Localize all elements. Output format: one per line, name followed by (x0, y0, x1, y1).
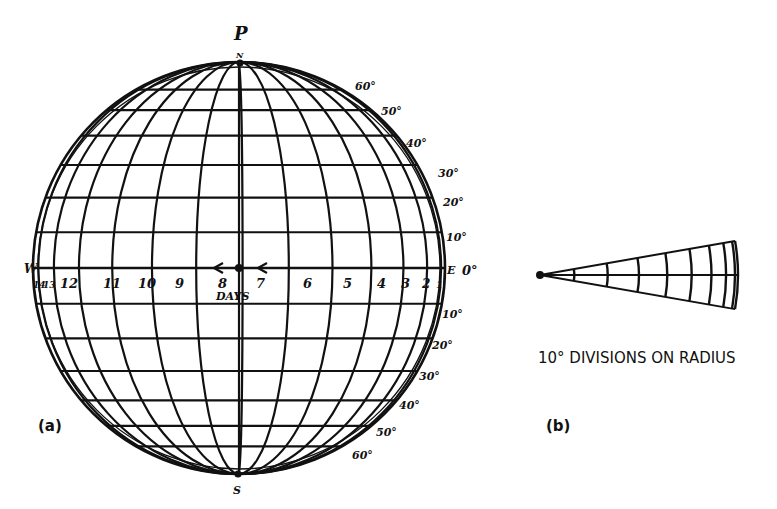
day-number: 1 (436, 279, 443, 290)
solar-globe-grid (33, 61, 445, 477)
day-number: 3 (401, 276, 410, 291)
day-number: 10 (138, 276, 156, 291)
day-number: 7 (256, 276, 265, 291)
figure-a-label: (a) (38, 417, 62, 435)
radius-division-arc (607, 263, 608, 286)
south-latitude-label: 50° (376, 426, 397, 439)
wedge-caption: 10° DIVISIONS ON RADIUS (538, 349, 736, 367)
north-latitude-label: 40° (406, 137, 427, 150)
south-latitude-label: 40° (399, 399, 420, 412)
days-axis-label: DAYS (215, 290, 249, 303)
north-latitude-label: 20° (442, 196, 464, 209)
east-label: E (446, 264, 456, 277)
figure-b-label: (b) (546, 417, 570, 435)
north-latitude-label: 30° (438, 167, 459, 180)
south-latitude-label: 20° (431, 339, 453, 352)
day-number: 12 (60, 276, 78, 291)
north-label: N (235, 50, 244, 60)
south-pole-dot (236, 472, 241, 477)
south-label: S (233, 484, 241, 497)
day-number: 8 (218, 276, 227, 291)
equator-label: 0° (462, 263, 478, 278)
north-latitude-label: 10° (446, 231, 467, 244)
north-latitude-label: 50° (381, 105, 402, 118)
north-latitude-label: 60° (355, 80, 376, 93)
day-number: 4 (377, 276, 386, 291)
south-latitude-label: 10° (442, 308, 463, 321)
north-pole-dot (238, 61, 243, 66)
day-number: 13 (43, 280, 56, 290)
south-latitude-label: 60° (352, 449, 373, 462)
center-dot (236, 265, 242, 271)
radius-divisions-wedge (537, 241, 738, 309)
day-number: 9 (175, 276, 184, 291)
wedge-origin-dot (537, 272, 543, 278)
diagram-canvas: P N S W E 0° DAYS 1413121110987654321 10… (0, 0, 777, 509)
day-number: 2 (421, 277, 430, 291)
day-number: 11 (103, 276, 121, 291)
day-number: 6 (303, 276, 312, 291)
south-latitude-label: 30° (419, 370, 440, 383)
day-number: 5 (343, 276, 352, 291)
west-label: W (24, 262, 39, 276)
radius-division-arc (574, 269, 575, 281)
pole-label-top: P (233, 23, 248, 44)
